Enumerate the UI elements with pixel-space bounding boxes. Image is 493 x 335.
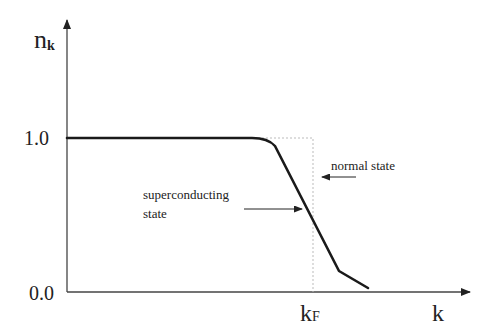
- normal-state-step: [262, 138, 313, 292]
- y-axis-label: nk: [34, 25, 55, 54]
- occupation-number-chart: nk 1.0 0.0 kF k normal state superconduc…: [0, 0, 493, 335]
- y-tick-1: 1.0: [24, 127, 49, 149]
- y-tick-0: 0.0: [29, 282, 54, 304]
- superconducting-label-line1: superconducting: [143, 187, 229, 202]
- normal-state-label: normal state: [331, 158, 395, 173]
- x-axis-label: k: [432, 300, 444, 326]
- superconducting-label-line2: state: [143, 206, 167, 221]
- x-tick-kf: kF: [300, 300, 320, 326]
- superconducting-curve: [67, 138, 368, 288]
